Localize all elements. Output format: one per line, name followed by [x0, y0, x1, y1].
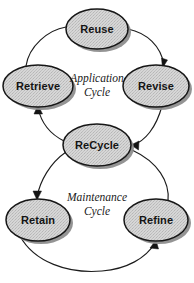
recycle-cycle-diagram: Reuse Retrieve Revise ReCycle: [0, 0, 194, 283]
label-application-cycle: Application Cycle: [69, 72, 124, 99]
edge-recycle-to-retain: [37, 152, 66, 197]
node-recycle-label: ReCycle: [75, 139, 119, 151]
edge-reuse-to-revise: [128, 29, 164, 65]
application-cycle-line2: Cycle: [84, 86, 110, 99]
node-refine[interactable]: Refine: [124, 199, 191, 244]
node-reuse[interactable]: Reuse: [66, 9, 131, 52]
node-recycle[interactable]: ReCycle: [63, 124, 134, 169]
node-revise[interactable]: Revise: [123, 65, 192, 110]
node-refine-label: Refine: [139, 214, 173, 226]
diagram-canvas: Reuse Retrieve Revise ReCycle: [0, 0, 194, 283]
node-retrieve-label: Retrieve: [16, 80, 60, 92]
edge-revise-to-recycle: [133, 106, 162, 145]
node-retain[interactable]: Retain: [6, 199, 73, 244]
label-maintenance-cycle: Maintenance Cycle: [66, 191, 127, 218]
node-revise-label: Revise: [138, 80, 174, 92]
application-cycle-line1: Application: [69, 72, 124, 85]
edge-refine-to-recycle: [132, 150, 168, 201]
edge-retrieve-to-reuse: [26, 27, 66, 66]
maintenance-cycle-line1: Maintenance: [66, 191, 127, 203]
node-retain-label: Retain: [21, 214, 55, 226]
node-reuse-label: Reuse: [80, 23, 114, 35]
maintenance-cycle-line2: Cycle: [84, 205, 110, 218]
node-retrieve[interactable]: Retrieve: [3, 65, 76, 110]
